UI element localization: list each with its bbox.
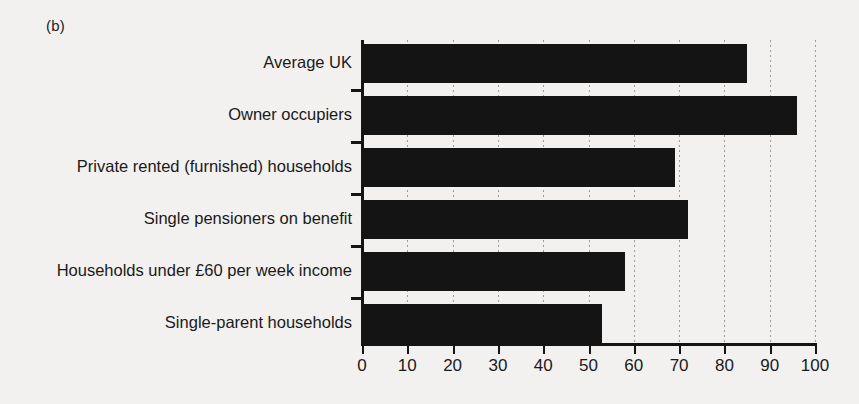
x-axis-tick-label: 30 [473, 356, 523, 376]
x-axis-tick-label: 60 [609, 356, 659, 376]
y-axis-tick [351, 297, 363, 300]
bar-series [362, 40, 815, 343]
x-axis-tick-70 [679, 346, 681, 354]
x-axis-tick-100 [815, 346, 817, 354]
bar [362, 148, 675, 187]
x-axis-tick-label: 50 [564, 356, 614, 376]
x-axis-tick-label: 100 [790, 356, 840, 376]
category-label: Single pensioners on benefit [2, 209, 352, 228]
bar-row [362, 304, 815, 343]
y-axis-tick [351, 193, 363, 196]
x-axis-tick-30 [498, 346, 500, 354]
x-axis-tick-80 [724, 346, 726, 354]
bar [362, 200, 688, 239]
x-axis-tick-label: 20 [428, 356, 478, 376]
plot-area [362, 40, 815, 343]
y-axis-tick [351, 141, 363, 144]
x-axis-tick-label: 0 [337, 356, 387, 376]
y-axis-tick [351, 89, 363, 92]
x-axis-tick-50 [589, 346, 591, 354]
bar-row [362, 44, 815, 83]
category-label: Average UK [2, 53, 352, 72]
bar [362, 44, 747, 83]
x-axis-tick-label: 10 [382, 356, 432, 376]
x-axis-tick-20 [453, 346, 455, 354]
bar-row [362, 148, 815, 187]
category-axis-labels: Average UKOwner occupiersPrivate rented … [0, 0, 352, 404]
chart-figure: (b) Average UKOwner occupiersPrivate ren… [0, 0, 859, 404]
x-axis-tick-60 [634, 346, 636, 354]
x-axis-tick-90 [770, 346, 772, 354]
category-label: Owner occupiers [2, 105, 352, 124]
x-axis-tick-10 [407, 346, 409, 354]
category-label: Single-parent households [2, 313, 352, 332]
bar-row [362, 96, 815, 135]
bar-row [362, 200, 815, 239]
bar-row [362, 252, 815, 291]
x-axis-tick-40 [543, 346, 545, 354]
category-label: Private rented (furnished) households [2, 157, 352, 176]
bar [362, 252, 625, 291]
x-axis-tick-label: 90 [745, 356, 795, 376]
bar [362, 96, 797, 135]
gridline-100 [815, 40, 816, 343]
bar [362, 304, 602, 343]
y-axis-tick [351, 245, 363, 248]
x-axis-tick-label: 70 [654, 356, 704, 376]
x-axis-tick-0 [362, 346, 364, 354]
x-axis-tick-label: 80 [699, 356, 749, 376]
category-label: Households under £60 per week income [2, 261, 352, 280]
x-axis-tick-label: 40 [518, 356, 568, 376]
